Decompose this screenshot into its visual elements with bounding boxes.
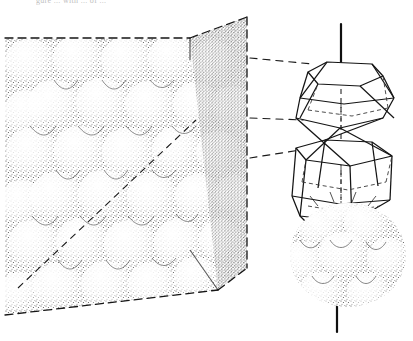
leader-line-1 [250, 58, 312, 64]
leader-line-3 [250, 150, 300, 158]
figure-container: gure ... with ... of ... [0, 0, 413, 341]
illustration-canvas [0, 0, 413, 341]
leader-line-2 [250, 118, 303, 120]
upper-polyhedron [296, 62, 394, 128]
